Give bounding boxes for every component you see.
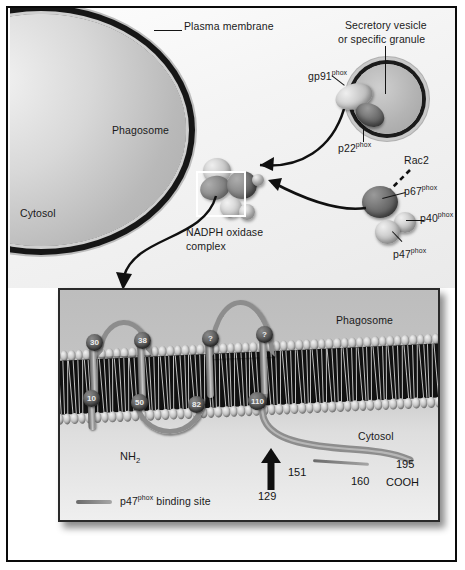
lipid-tail: [77, 360, 80, 414]
lipid-tail: [62, 361, 65, 415]
cytosolic-to-complex-arrow: [246, 166, 370, 214]
lipid-head-inner: [435, 396, 440, 407]
phagosome-edge-mask: [8, 8, 10, 288]
lipid-tail: [438, 343, 440, 397]
bottom-panel-topology: Phagosome Cytosol 30 38 ? ? 10: [58, 288, 440, 522]
lipid-tail: [82, 360, 84, 414]
n-terminus-text: NH: [120, 450, 136, 462]
p47phox-label-sup: phox: [411, 247, 426, 254]
residue-151-label: 151: [288, 466, 306, 478]
gp91phox-label-text: gp91: [308, 70, 332, 82]
lipid-tail: [427, 344, 430, 398]
bottom-phagosome-label: Phagosome: [336, 314, 393, 326]
lipid-tail: [58, 361, 59, 415]
cytosol-label: Cytosol: [20, 207, 56, 219]
c-terminus-label: COOH: [386, 476, 419, 488]
n-terminus-label: NH2: [120, 450, 140, 465]
p40phox-label: p40phox: [420, 211, 453, 224]
lipid-tail: [240, 352, 245, 406]
lipid-head-inner: [108, 411, 116, 422]
legend-label-superscript: phox: [138, 494, 153, 501]
plasma-membrane-label: Plasma membrane: [184, 20, 274, 32]
residue-195-label: 195: [396, 458, 414, 470]
p22phox-leader-line: [363, 126, 364, 142]
p40phox-label-text: p40: [420, 212, 438, 224]
lipid-tail: [433, 344, 439, 398]
p47phox-subunit: [375, 220, 400, 244]
lipid-tail: [123, 358, 126, 412]
lipid-head-outer: [439, 333, 440, 344]
p22phox-label-sup: phox: [356, 141, 371, 148]
lipid-tail: [108, 358, 111, 412]
figure-root: Plasma membrane Phagosome Cytosol Secret…: [0, 0, 465, 570]
p67phox-label-sup: phox: [422, 184, 437, 191]
secretory-vesicle-label-line2: or specific granule: [338, 33, 425, 45]
lipid-tail: [401, 345, 403, 399]
lipid-head-inner: [222, 406, 230, 417]
lipid-head-inner: [237, 405, 245, 416]
top-panel-overview: Plasma membrane Phagosome Cytosol Secret…: [8, 8, 455, 288]
residue-circle-unknown-2: ?: [256, 326, 273, 343]
p47phox-label: p47phox: [393, 247, 426, 260]
p40phox-leader-line: [406, 220, 424, 221]
n-terminus-subscript: 2: [136, 456, 140, 465]
residue-160-label: 160: [351, 475, 369, 487]
lipid-tail: [412, 345, 415, 399]
residue-129-arrow-icon: [260, 448, 282, 490]
legend-label: p47phox binding site: [120, 494, 211, 507]
p47phox-label-text: p47: [393, 248, 411, 260]
residue-circle-38: 38: [134, 332, 151, 349]
oxidase-complex-blob-4: [252, 174, 264, 186]
legend-label-prefix: p47: [120, 495, 138, 507]
legend-binding-bar-icon: [76, 500, 112, 504]
secretory-vesicle-leader-line: [385, 46, 386, 94]
lipid-head-inner: [71, 413, 79, 424]
lipid-tail: [382, 346, 385, 400]
residue-circle-unknown-1: ?: [202, 330, 219, 347]
legend-label-suffix: binding site: [153, 495, 210, 507]
lipid-tail: [397, 345, 400, 399]
residue-circle-10: 10: [83, 390, 100, 407]
inset-zoom-arrow: [92, 190, 222, 298]
lipid-tail: [230, 353, 233, 407]
gp91phox-label: gp91phox: [308, 69, 347, 82]
plasma-membrane-leader-line: [154, 30, 182, 31]
secretory-vesicle-label-line1: Secretory vesicle: [345, 19, 427, 31]
gp91phox-label-sup: phox: [332, 69, 347, 76]
p40phox-label-sup: phox: [438, 211, 453, 218]
p67phox-label: p67phox: [404, 184, 437, 197]
lipid-tail: [118, 358, 123, 412]
lipid-tail: [366, 347, 369, 401]
lipid-tail: [58, 361, 62, 415]
residue-circle-30: 30: [86, 334, 103, 351]
lipid-tail: [103, 359, 108, 413]
lipid-tail: [417, 344, 419, 398]
residue-circle-50: 50: [131, 394, 148, 411]
lipid-tail: [214, 354, 217, 408]
residue-129-label: 129: [258, 490, 276, 502]
p67phox-label-text: p67: [404, 185, 422, 197]
rac2-label: Rac2: [404, 154, 429, 166]
lipid-tail: [377, 346, 382, 400]
residue-circle-110: 110: [248, 392, 267, 410]
residue-circle-82: 82: [188, 396, 205, 413]
lipid-tail: [97, 359, 99, 413]
lipid-head-inner: [124, 411, 132, 422]
lipid-tail: [392, 346, 397, 400]
lipid-tail: [219, 353, 221, 407]
phagosome-label: Phagosome: [112, 124, 169, 136]
